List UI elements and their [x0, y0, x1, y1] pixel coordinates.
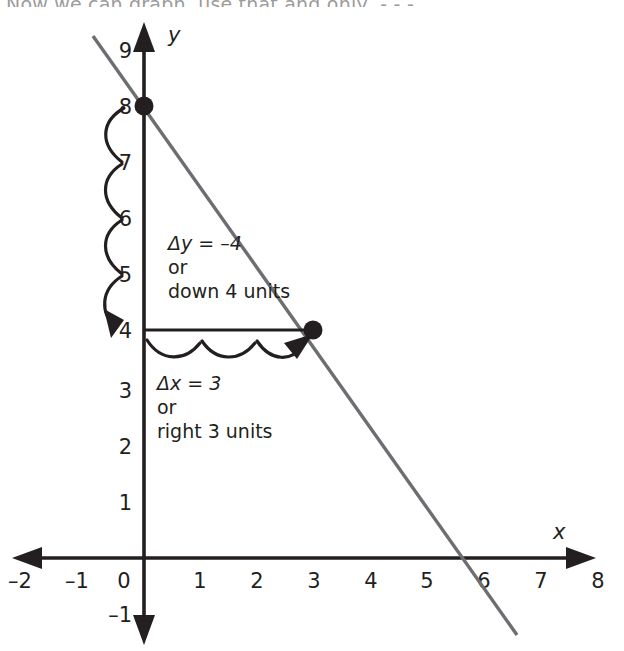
- y-tick-label: 1: [119, 491, 132, 515]
- rise-annotation: Δy = –4 or down 4 units: [166, 232, 290, 302]
- x-tick-label: –2: [8, 569, 32, 593]
- run-annotation-line3: right 3 units: [157, 420, 273, 442]
- x-tick-label: 4: [364, 569, 377, 593]
- data-point-0-8: [135, 97, 154, 116]
- y-tick-label: 9: [119, 39, 132, 63]
- x-tick-label: 5: [420, 569, 433, 593]
- run-annotation-line2: or: [157, 396, 177, 418]
- y-tick-label: –1: [108, 603, 132, 627]
- x-tick-labels: –2 –1 0 1 2 3 4 5 6 7 8: [8, 569, 605, 593]
- y-axis-bottom-arrowhead: [133, 615, 155, 645]
- x-axis-right-arrowhead: [566, 547, 596, 569]
- x-axis-left-arrowhead: [12, 547, 42, 569]
- x-tick-label: 8: [591, 569, 604, 593]
- run-annotation: Δx = 3 or right 3 units: [155, 372, 273, 442]
- data-point-3-4: [304, 321, 323, 340]
- y-axis-label: y: [167, 23, 181, 47]
- rise-annotation-line1: Δy = –4: [166, 232, 242, 254]
- plotted-line: [93, 36, 517, 635]
- x-axis-label: x: [552, 520, 566, 544]
- x-axis: [12, 547, 596, 569]
- x-tick-label: 3: [307, 569, 320, 593]
- run-arc-2: [202, 341, 255, 357]
- y-tick-label: 2: [119, 435, 132, 459]
- run-arc-arrow: [147, 340, 303, 357]
- y-tick-label: 3: [119, 379, 132, 403]
- run-arc-1: [147, 340, 200, 357]
- x-tick-label: 2: [250, 569, 263, 593]
- run-annotation-line1: Δx = 3: [155, 372, 221, 394]
- x-tick-label: 1: [193, 569, 206, 593]
- x-tick-label: 0: [117, 569, 130, 593]
- coordinate-graph: y x –2 –1 0 1 2 3 4 5 6 7 8 –1 1 2 3 4 5…: [0, 0, 624, 651]
- x-tick-label: –1: [65, 569, 89, 593]
- y-axis-top-arrowhead: [133, 22, 155, 52]
- x-tick-label: 7: [534, 569, 547, 593]
- rise-arc-arrow: [105, 108, 124, 328]
- rise-annotation-line2: or: [168, 256, 188, 278]
- rise-annotation-line3: down 4 units: [168, 280, 290, 302]
- y-tick-label: 8: [119, 95, 132, 119]
